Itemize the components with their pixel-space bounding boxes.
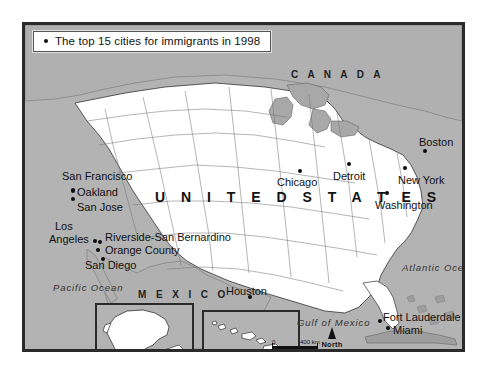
dot-fort-lauderdale bbox=[378, 319, 382, 323]
label-pacific-ocean: Pacific Ocean bbox=[53, 283, 123, 293]
scale-bar: 0 400 km 0 400 Miles bbox=[272, 342, 352, 352]
label-oakland: Oakland bbox=[77, 187, 118, 198]
dot-orange-county bbox=[96, 248, 100, 252]
label-houston: Houston bbox=[226, 286, 267, 297]
label-san-diego: San Diego bbox=[85, 260, 136, 271]
dot-oakland bbox=[71, 189, 75, 193]
scale-bar-km bbox=[272, 346, 318, 349]
inset-alaska bbox=[95, 303, 194, 352]
dot-houston bbox=[248, 295, 252, 299]
map-frame: The top 15 cities for immigrants in 1998… bbox=[22, 22, 465, 352]
label-boston: Boston bbox=[419, 137, 453, 148]
dot-washington bbox=[385, 191, 389, 195]
label-fort-lauderdale: Fort Lauderdale bbox=[383, 312, 461, 323]
label-san-francisco: San Francisco bbox=[62, 171, 132, 182]
legend-text: The top 15 cities for immigrants in 1998 bbox=[55, 35, 260, 47]
label-mexico: M E X I C O bbox=[138, 290, 229, 300]
dot-chicago bbox=[298, 169, 302, 173]
scale-tick-km-end bbox=[317, 343, 318, 352]
alaska-shape bbox=[97, 305, 192, 352]
label-atlantic-ocean: Atlantic Ocean bbox=[402, 263, 465, 273]
label-riverside-san-bernardino: Riverside-San Bernardino bbox=[105, 232, 231, 243]
label-new-york: New York bbox=[398, 175, 444, 186]
dot-marker-icon bbox=[44, 39, 48, 43]
label-detroit: Detroit bbox=[333, 171, 365, 182]
map-canvas: The top 15 cities for immigrants in 1998… bbox=[25, 25, 462, 349]
dot-riverside-san-bernardino bbox=[98, 240, 102, 244]
scale-label-mi: 400 Miles bbox=[326, 350, 352, 352]
scale-row-km: 0 400 km bbox=[272, 342, 352, 352]
label-miami: Miami bbox=[393, 325, 422, 336]
dot-boston bbox=[423, 149, 427, 153]
label-los-angeles-line1: Los bbox=[55, 221, 73, 232]
dot-miami bbox=[386, 326, 390, 330]
scale-zero-mi: 0 bbox=[272, 350, 275, 352]
label-san-jose: San Jose bbox=[77, 202, 123, 213]
map-page: The top 15 cities for immigrants in 1998… bbox=[0, 0, 485, 376]
label-chicago: Chicago bbox=[277, 177, 317, 188]
dot-san-jose bbox=[71, 197, 75, 201]
legend-box: The top 15 cities for immigrants in 1998 bbox=[33, 31, 271, 52]
scale-tick-km-start bbox=[272, 343, 273, 352]
label-canada: C A N A D A bbox=[291, 70, 384, 80]
label-los-angeles-line2: Angeles bbox=[49, 234, 89, 245]
north-arrow-icon bbox=[328, 327, 336, 339]
dot-detroit bbox=[347, 162, 351, 166]
dot-san-diego bbox=[101, 257, 105, 261]
label-washington: Washington bbox=[375, 200, 433, 211]
label-orange-county: Orange County bbox=[105, 245, 180, 256]
dot-los-angeles bbox=[93, 239, 97, 243]
dot-new-york bbox=[403, 166, 407, 170]
